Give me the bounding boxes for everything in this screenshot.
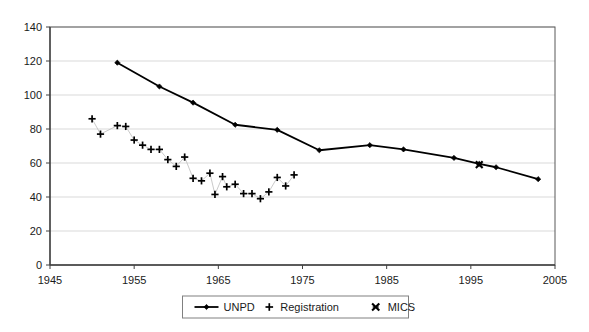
y-tick-label-20: 20: [30, 225, 42, 237]
x-tick-label-1955: 1955: [122, 274, 146, 286]
y-tick-label-40: 40: [30, 191, 42, 203]
y-tick-label-60: 60: [30, 157, 42, 169]
y-tick-label-140: 140: [24, 21, 42, 33]
y-tick-label-120: 120: [24, 55, 42, 67]
x-tick-label-2005: 2005: [543, 274, 567, 286]
x-tick-label-1965: 1965: [206, 274, 230, 286]
x-tick-label-1995: 1995: [459, 274, 483, 286]
x-tick-label-1975: 1975: [290, 274, 314, 286]
legend-label-mics: MICS: [388, 301, 416, 313]
legend-label-unpd: UNPD: [224, 301, 255, 313]
x-tick-label-1985: 1985: [374, 274, 398, 286]
legend-item-mics[interactable]: MICS: [372, 301, 415, 313]
legend-label-registration: Registration: [280, 301, 339, 313]
chart-container: 020406080100120140 194519551965197519851…: [0, 0, 589, 332]
y-tick-label-0: 0: [36, 259, 42, 271]
line-chart: 020406080100120140 194519551965197519851…: [0, 0, 589, 332]
y-tick-label-80: 80: [30, 123, 42, 135]
x-tick-label-1945: 1945: [38, 274, 62, 286]
chart-legend: UNPDRegistrationMICS: [183, 296, 416, 318]
y-tick-label-100: 100: [24, 89, 42, 101]
